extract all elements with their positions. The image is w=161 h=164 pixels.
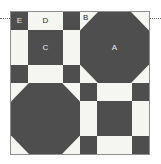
label-C: C [43,44,49,52]
patch-cell-tl-3 [63,12,80,30]
nine-patch-top-left: E D C [11,12,80,83]
nine-patch-bottom-right [80,83,149,154]
quilt-block: E D C A B [10,11,150,155]
quadrant-bottom-left [11,83,80,154]
quadrant-top-right: A B [80,12,149,83]
patch-cell-br-1 [80,83,97,101]
patch-cell-br-8 [97,136,132,154]
snowball-top-right: A B [80,12,149,83]
patch-cell-tl-7 [11,65,28,83]
patch-cell-br-9 [132,136,149,154]
patch-cell-tl-6 [63,30,80,66]
label-B: B [83,14,89,22]
label-E: E [17,17,23,25]
octagon-shape-bottom-left [11,83,80,154]
quilt-block-diagram: E D C A B [0,0,161,164]
patch-cell-br-2 [97,83,132,101]
patch-cell-tl-9 [63,65,80,83]
patch-cell-br-4 [80,101,97,137]
quadrant-bottom-right [80,83,149,154]
guide-line-left [0,18,10,19]
patch-cell-br-6 [132,101,149,137]
patch-cell-br-5 [97,101,132,137]
patch-cell-br-7 [80,136,97,154]
patch-cell-E: E [11,12,28,30]
quadrant-top-left: E D C [11,12,80,83]
patch-cell-br-3 [132,83,149,101]
octagon-shape-A [80,12,149,83]
snowball-bottom-left [11,83,80,154]
patch-cell-D: D [28,12,63,30]
patch-cell-tl-8 [28,65,63,83]
guide-line-right [150,18,161,19]
patch-cell-tl-4 [11,30,28,66]
patch-cell-C: C [28,30,63,66]
label-D: D [43,17,49,25]
